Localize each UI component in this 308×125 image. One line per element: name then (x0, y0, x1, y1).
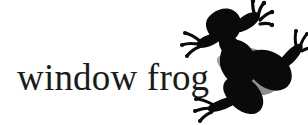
right-front-toe-tip-3 (270, 10, 274, 14)
left-hind-toe-tip-2 (193, 109, 197, 113)
frog-left-front-toes (182, 33, 200, 56)
frog-silhouette-svg (176, 0, 308, 125)
frog-body-group (180, 0, 308, 123)
left-front-toe-tip-3 (185, 54, 189, 58)
frog-silhouette-figure (176, 0, 308, 125)
right-front-toe-tip-4 (270, 23, 274, 27)
left-front-toe-tip-1 (183, 31, 187, 35)
left-hind-toe-tip-1 (194, 97, 198, 101)
right-hind-toe-tip-1 (294, 29, 298, 33)
left-front-toe-tip-2 (180, 43, 184, 47)
image-canvas: window frog (0, 0, 308, 125)
left-hind-toe-tip-3 (198, 119, 202, 123)
right-front-toe-tip-2 (262, 1, 266, 5)
